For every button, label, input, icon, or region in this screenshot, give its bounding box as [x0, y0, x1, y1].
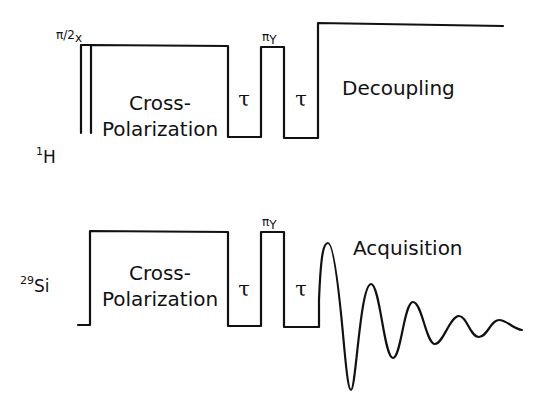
- pi-half-pulse-label: π/2x: [56, 28, 82, 45]
- acquisition-label: Acquisition: [353, 236, 463, 260]
- pulse-sequence-diagram: 1H π/2x Cross- Polarization τ πY τ Decou…: [0, 0, 543, 416]
- proton-pi-pulse-label: πY: [262, 30, 277, 47]
- fid-acquisition-waveform: [319, 243, 522, 390]
- decoupling-label: Decoupling: [342, 76, 455, 100]
- proton-tau2-label: τ: [295, 87, 307, 111]
- silicon-cp-label-line1: Cross-: [129, 261, 191, 285]
- silicon-cp-label-line2: Polarization: [102, 287, 218, 311]
- silicon-pi-pulse-label: πY: [262, 215, 277, 232]
- proton-cp-label-line2: Polarization: [102, 117, 218, 141]
- proton-nucleus-label: 1H: [36, 145, 56, 167]
- proton-cp-label-line1: Cross-: [129, 91, 191, 115]
- silicon-channel: 29Si Cross- Polarization τ πY τ Acquisit…: [20, 215, 522, 390]
- silicon-pulse-waveform: [78, 231, 319, 327]
- silicon-tau2-label: τ: [295, 277, 307, 301]
- proton-tau1-label: τ: [238, 87, 250, 111]
- silicon-nucleus-label: 29Si: [20, 274, 50, 296]
- proton-channel: 1H π/2x Cross- Polarization τ πY τ Decou…: [36, 23, 503, 167]
- silicon-tau1-label: τ: [238, 277, 250, 301]
